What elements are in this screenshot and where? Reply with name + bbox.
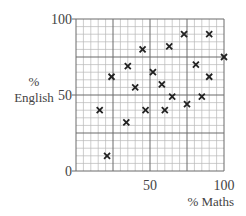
y-tick-0: 0 (65, 164, 72, 179)
x-tick-50: 50 (143, 178, 157, 193)
x-marker (159, 81, 165, 87)
x-axis-label: % Maths (187, 194, 234, 209)
scatter-chart: 100 50 0 50 100 % English % Maths (0, 0, 246, 216)
x-marker (109, 74, 115, 80)
y-tick-100: 100 (51, 12, 72, 27)
y-axis-label-percent: % (29, 74, 40, 89)
x-marker (166, 43, 172, 49)
y-axis-label: English (14, 90, 54, 105)
x-marker (123, 119, 129, 125)
y-tick-50: 50 (58, 88, 72, 103)
x-tick-100: 100 (214, 178, 235, 193)
